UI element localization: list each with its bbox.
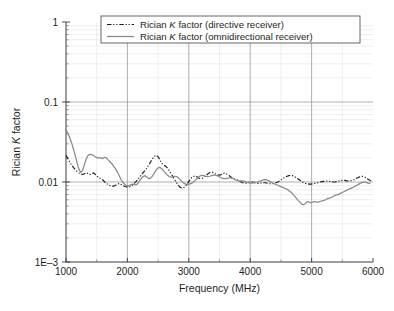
x-tick-label: 1000 [55, 266, 78, 277]
y-tick-label: 0.1 [44, 97, 58, 108]
tick-marks [62, 22, 373, 262]
x-axis-label: Frequency (MHz) [179, 282, 260, 294]
y-tick-label: 1E–3 [35, 257, 59, 268]
grid-minor-group [66, 22, 373, 262]
x-axis-title: Frequency (MHz) [179, 282, 260, 294]
x-tick-label: 6000 [362, 266, 385, 277]
y-axis-title: Rician K factor [10, 107, 22, 176]
y-tick-label: 1 [52, 17, 58, 28]
figure-container: 100020003000400050006000 10.10.011E–3 Fr… [0, 0, 394, 311]
x-tick-label: 5000 [300, 266, 323, 277]
x-tick-label: 3000 [178, 266, 201, 277]
y-tick-label: 0.01 [39, 177, 59, 188]
x-tick-label: 2000 [116, 266, 139, 277]
legend: Rician K factor (directive receiver)Rici… [101, 16, 360, 43]
x-tick-labels: 100020003000400050006000 [55, 266, 385, 277]
x-tick-label: 4000 [239, 266, 262, 277]
y-axis-label: Rician K factor [10, 107, 22, 176]
rician-k-factor-chart: 100020003000400050006000 10.10.011E–3 Fr… [0, 0, 394, 311]
legend-label-1: Rician K factor (directive receiver) [140, 19, 284, 30]
series-line-2 [66, 130, 370, 205]
legend-label-2: Rician K factor (omnidirectional receive… [140, 31, 313, 42]
y-tick-labels: 10.10.011E–3 [35, 17, 59, 268]
